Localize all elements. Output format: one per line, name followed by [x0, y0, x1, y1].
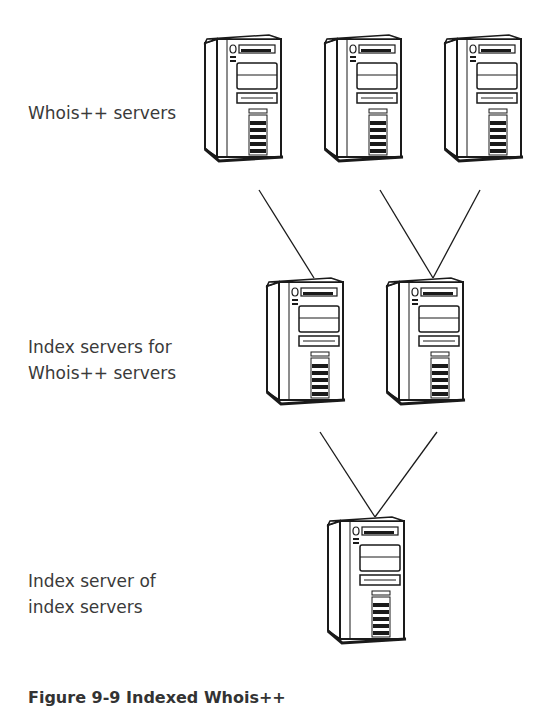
index-server-2 [387, 278, 465, 404]
whois-server-1 [205, 35, 283, 161]
index-of-index-server [328, 517, 406, 643]
whois-server-3 [445, 35, 523, 161]
index-server-1 [267, 278, 345, 404]
whois-server-2 [325, 35, 403, 161]
